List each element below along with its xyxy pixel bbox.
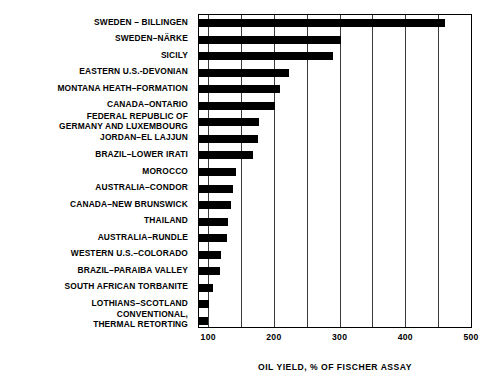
x-tick-100: 100 <box>201 332 216 342</box>
gridline-500 <box>471 15 472 327</box>
category-label: FEDERAL REPUBLIC OF GERMANY AND LUXEMBOU… <box>0 111 193 131</box>
category-label: BRAZIL–PARAIBA VALLEY <box>0 265 193 275</box>
bar <box>199 85 280 93</box>
category-label: CANADA–NEW BRUNSWICK <box>0 199 193 209</box>
bar <box>199 317 208 325</box>
gridline-350 <box>372 15 373 327</box>
bar <box>199 19 445 27</box>
bar <box>199 284 213 292</box>
x-axis-title: OIL YIELD, % OF FISCHER ASSAY <box>198 362 472 372</box>
category-label: MONTANA HEATH–FORMATION <box>0 83 193 93</box>
bar <box>199 218 228 226</box>
bar <box>199 234 227 242</box>
x-tick-400: 400 <box>398 332 413 342</box>
bar <box>199 267 220 275</box>
category-label: BRAZIL–LOWER IRATI <box>0 149 193 159</box>
gridline-250 <box>307 15 308 327</box>
bar <box>199 185 233 193</box>
gridline-150 <box>241 15 242 327</box>
category-label: LOTHIANS–SCOTLAND <box>0 298 193 308</box>
category-label: JORDAN–EL LAJJUN <box>0 132 193 142</box>
bar <box>199 251 221 259</box>
x-tick-200: 200 <box>266 332 281 342</box>
category-label: SICILY <box>0 50 193 60</box>
category-label: SOUTH AFRICAN TORBANITE <box>0 281 193 291</box>
bar <box>199 168 236 176</box>
category-label: CONVENTIONAL, THERMAL RETORTING <box>0 309 193 329</box>
x-tick-300: 300 <box>332 332 347 342</box>
category-label: THAILAND <box>0 215 193 225</box>
horizontal-bar-chart: SWEDEN – BILLINGENSWEDEN–NÄRKESICILYEAST… <box>0 0 495 389</box>
gridline-450 <box>438 15 439 327</box>
bar <box>199 300 209 308</box>
bar <box>199 69 289 77</box>
category-label: SWEDEN – BILLINGEN <box>0 17 193 27</box>
bar <box>199 102 275 110</box>
category-label: SWEDEN–NÄRKE <box>0 33 193 43</box>
category-label: MOROCCO <box>0 166 193 176</box>
bar <box>199 52 333 60</box>
category-label: AUSTRALIA–RUNDLE <box>0 232 193 242</box>
category-label-column: SWEDEN – BILLINGENSWEDEN–NÄRKESICILYEAST… <box>0 14 193 328</box>
category-label: AUSTRALIA–CONDOR <box>0 182 193 192</box>
gridline-400 <box>405 15 406 327</box>
category-label: EASTERN U.S.-DEVONIAN <box>0 66 193 76</box>
bar <box>199 201 231 209</box>
bar <box>199 118 259 126</box>
category-label: CANADA–ONTARIO <box>0 99 193 109</box>
bar <box>199 36 341 44</box>
category-label: WESTERN U.S.–COLORADO <box>0 248 193 258</box>
x-axis-tick-labels: 100200300400500 <box>0 332 495 346</box>
gridline-300 <box>340 15 341 327</box>
gridline-200 <box>274 15 275 327</box>
x-tick-500: 500 <box>463 332 478 342</box>
plot-area <box>198 14 472 328</box>
bar <box>199 151 253 159</box>
bar <box>199 135 258 143</box>
